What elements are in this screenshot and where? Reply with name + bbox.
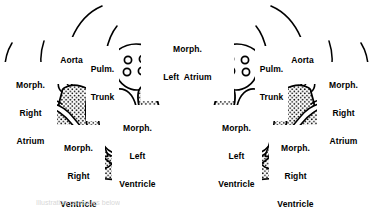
label-line: Trunk bbox=[87, 93, 119, 102]
right-panel-morph-right-ventricle-label: Morph. Right Ventricle bbox=[269, 125, 322, 208]
right-panel-pulmonary-vein-3 bbox=[242, 68, 249, 75]
left-panel-pulmonary-vein-3 bbox=[123, 68, 130, 75]
label-line: Pulm. bbox=[87, 65, 119, 74]
label-line: Left bbox=[113, 152, 163, 161]
label-line: Morph. bbox=[53, 144, 105, 153]
label-line: Aorta bbox=[56, 56, 88, 65]
cardiac-anatomy-figure: Morph. Right Atrium Aorta Pulm. Trunk Mo… bbox=[0, 0, 373, 208]
label-line: Morph. bbox=[270, 144, 322, 153]
label-line: Morph. bbox=[5, 81, 57, 90]
label-line: Left bbox=[212, 152, 262, 161]
label-line: Trunk bbox=[256, 93, 288, 102]
right-panel-pulmonary-vein-1 bbox=[241, 56, 248, 63]
label-line: Pulm. bbox=[256, 65, 288, 74]
label-line: Aorta bbox=[287, 56, 319, 65]
right-panel-morph-left-ventricle-label: Morph. Left Ventricle bbox=[211, 105, 262, 208]
label-line: Right bbox=[5, 109, 57, 118]
left-panel-morph-left-ventricle-label: Morph. Left Ventricle bbox=[112, 105, 163, 208]
label-line: Ventricle bbox=[270, 200, 322, 208]
label-line: Ventricle bbox=[113, 180, 163, 189]
label-line: Morph. bbox=[113, 124, 163, 133]
label-line: Morph. bbox=[142, 45, 234, 54]
label-line: Atrium bbox=[318, 137, 370, 146]
right-panel-morph-right-atrium-label: Morph. Right Atrium bbox=[317, 62, 370, 165]
label-line: Right bbox=[318, 109, 370, 118]
label-line: Left Atrium bbox=[142, 73, 234, 82]
left-panel-morph-right-atrium-label: Morph. Right Atrium bbox=[4, 62, 57, 165]
right-panel-aorta-label: Aorta bbox=[286, 37, 319, 84]
label-line: Morph. bbox=[318, 81, 370, 90]
label-line: Ventricle bbox=[212, 180, 262, 189]
shared-morph-left-atrium-label: Morph. Left Atrium bbox=[141, 26, 234, 101]
left-panel-pulmonary-vein-1 bbox=[124, 56, 131, 63]
left-panel-morph-right-ventricle-label: Morph. Right Ventricle bbox=[52, 125, 105, 208]
label-line: Atrium bbox=[5, 137, 57, 146]
label-line: Morph. bbox=[212, 124, 262, 133]
label-line: Right bbox=[270, 172, 322, 181]
figure-caption-clipped: Illustration continues below bbox=[36, 199, 120, 208]
label-line: Right bbox=[53, 172, 105, 181]
left-panel-aorta-label: Aorta bbox=[55, 37, 88, 84]
